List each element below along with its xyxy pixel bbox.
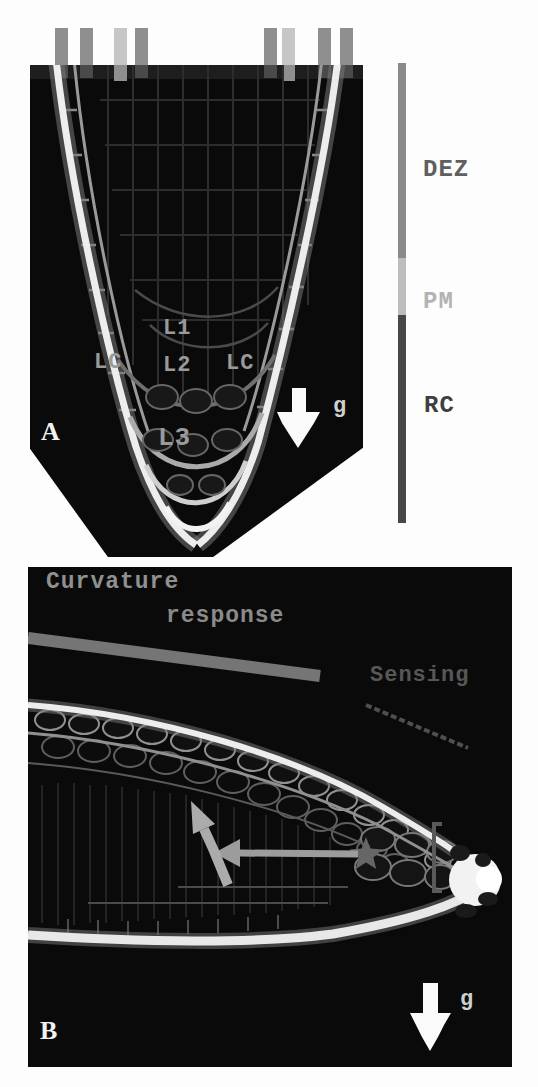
cell-file-lines <box>68 887 348 935</box>
gravity-arrow-a <box>277 388 320 448</box>
zone-scale-bar <box>398 63 406 523</box>
gravity-label-b: g <box>460 987 473 1012</box>
panel-a-letter: A <box>41 417 60 447</box>
file-marker-dark-3 <box>135 28 148 67</box>
zone-bar-dez <box>398 63 406 258</box>
curvature-label-line2: response <box>166 603 284 629</box>
layer-label-l3: L3 <box>158 423 191 453</box>
curvature-response-bar <box>28 638 320 676</box>
file-marker-dark-4 <box>264 28 277 67</box>
zone-bar-pm <box>398 258 406 315</box>
file-marker-dark-1 <box>55 28 68 67</box>
mid-cell-walls <box>135 287 278 347</box>
panel-a-micrograph <box>30 65 363 557</box>
file-marker-dark-2 <box>80 28 93 67</box>
gravity-label-a: g <box>333 394 346 419</box>
root-tip-bright-mass <box>449 845 502 918</box>
curvature-label-line1: Curvature <box>46 569 179 595</box>
layer-label-l1: L1 <box>163 316 191 341</box>
layer-label-lc-right: LC <box>226 351 254 376</box>
curvature-direction-arrow <box>191 801 228 885</box>
root-tip-horizontal-drawing <box>28 567 512 1067</box>
layer-label-l2: L2 <box>163 353 191 378</box>
layer-label-lc-left: LC <box>94 350 122 375</box>
sensing-pointer-line <box>366 705 468 748</box>
zone-label-rc: RC <box>424 392 455 419</box>
zone-label-dez: DEZ <box>423 156 469 183</box>
sensing-label: Sensing <box>370 663 469 688</box>
panel-b-letter: B <box>40 1016 57 1046</box>
file-marker-light-1 <box>114 28 127 67</box>
zone-bar-rc <box>398 315 406 523</box>
panel-b-micrograph <box>28 567 512 1067</box>
outer-cell-wall-glow <box>56 65 338 545</box>
gravity-arrow-b <box>410 983 451 1051</box>
file-marker-dark-5 <box>318 28 331 67</box>
root-tip-vertical-drawing <box>30 65 363 557</box>
signal-arrow <box>214 839 358 867</box>
file-marker-light-2 <box>282 28 295 67</box>
file-marker-dark-6 <box>340 28 353 67</box>
zone-label-pm: PM <box>423 288 454 315</box>
outer-cell-wall-glow-b <box>28 705 486 941</box>
